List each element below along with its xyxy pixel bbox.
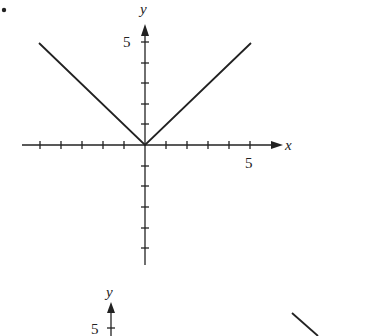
y-tick-label-5-2: 5	[91, 321, 99, 336]
graph-2	[107, 307, 318, 336]
graph-canvas: x y 5 5 y 5	[0, 0, 381, 336]
x-arrow-icon	[271, 141, 283, 149]
y-arrow-icon	[141, 24, 149, 36]
y-axis-label: y	[138, 1, 147, 17]
x-tick-label-5: 5	[245, 155, 253, 171]
y-tick-label-5: 5	[123, 34, 131, 50]
y-axis-label-2: y	[104, 284, 113, 300]
graph-1	[22, 30, 276, 265]
y-arrow-2-icon	[107, 302, 115, 313]
x-axis-label: x	[284, 137, 292, 153]
curve-2	[292, 313, 318, 336]
bullet-marker	[2, 8, 6, 12]
